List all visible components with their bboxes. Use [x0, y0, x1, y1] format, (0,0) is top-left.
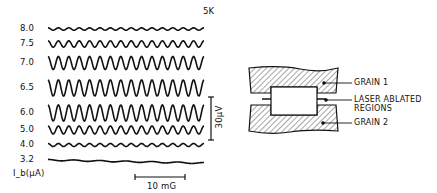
grain-1-label: GRAIN 1 — [354, 78, 388, 87]
center-island — [271, 87, 317, 115]
current-label: 7.0 — [20, 57, 34, 67]
current-label: 8.0 — [20, 23, 34, 33]
current-label: 4.0 — [20, 139, 34, 149]
trace-6.0 — [48, 105, 204, 121]
trace-7.5 — [48, 41, 204, 47]
trace-8.0 — [48, 28, 204, 30]
oscillation-traces — [48, 28, 204, 164]
trace-5.0 — [48, 126, 204, 134]
field-scale-label: 10 mG — [147, 181, 176, 191]
trace-7.0 — [48, 57, 204, 70]
junction-diagram — [249, 67, 352, 134]
current-label: 6.5 — [20, 82, 34, 92]
laser-ablated-label-line1: LASER ABLATED — [354, 95, 422, 104]
voltage-scale-label: 30μV — [214, 106, 224, 129]
trace-4.0 — [48, 144, 204, 147]
trace-6.5 — [48, 80, 204, 96]
current-label: 7.5 — [20, 38, 34, 48]
current-label: 3.2 — [20, 154, 34, 164]
y-axis-label: I_b(μA) — [13, 168, 44, 178]
laser-ablated-label-line2: REGIONS — [354, 104, 392, 113]
field-scale-bar — [135, 174, 185, 180]
grain-2-label: GRAIN 2 — [354, 118, 388, 127]
temperature-label: 5K — [203, 6, 214, 16]
voltage-scale-bar — [208, 97, 214, 140]
trace-3.2 — [48, 159, 204, 163]
current-label: 5.0 — [20, 124, 34, 134]
current-label: 6.0 — [20, 107, 34, 117]
